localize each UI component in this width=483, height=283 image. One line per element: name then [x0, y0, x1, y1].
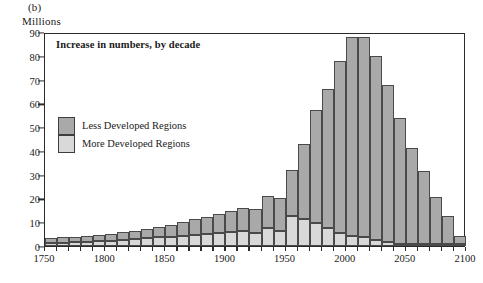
x-tick-mark [128, 247, 129, 251]
legend-label-more-developed: More Developed Regions [82, 138, 190, 149]
bar-segment-more-developed [286, 216, 298, 246]
x-tick-label: 1750 [34, 253, 55, 264]
x-tick-label: 2100 [455, 253, 476, 264]
bar-segment-less-developed [165, 225, 177, 237]
x-tick-mark [273, 247, 274, 251]
bar-segment-more-developed [129, 239, 141, 246]
y-tick-label: 60 [18, 99, 40, 110]
bar-segment-less-developed [454, 236, 466, 245]
bar-segment-less-developed [358, 37, 370, 238]
x-tick-mark [285, 247, 286, 251]
x-tick-label: 1800 [94, 253, 115, 264]
bar-segment-less-developed [310, 110, 322, 223]
y-tick-label: 0 [18, 242, 40, 253]
bar-segment-more-developed [117, 240, 129, 246]
bar-segment-less-developed [286, 170, 298, 216]
x-tick-mark [381, 247, 382, 251]
x-tick-mark [140, 247, 141, 251]
bar-segment-less-developed [117, 232, 129, 240]
x-tick-label: 1950 [274, 253, 295, 264]
bar-segment-less-developed [274, 198, 286, 232]
x-tick-mark [333, 247, 334, 251]
x-tick-mark [92, 247, 93, 251]
bar-segment-less-developed [45, 238, 57, 243]
bar-segment-more-developed [57, 243, 69, 246]
bar-segment-more-developed [201, 234, 213, 246]
x-tick-mark [176, 247, 177, 251]
bar-segment-less-developed [418, 171, 430, 244]
bar-segment-less-developed [406, 148, 418, 245]
bar-segment-more-developed [189, 235, 201, 246]
y-tick-label: 10 [18, 218, 40, 229]
x-tick-mark [44, 247, 45, 251]
bar-segment-more-developed [81, 242, 93, 246]
y-tick-label: 30 [18, 170, 40, 181]
x-tick-mark [80, 247, 81, 251]
bar-segment-more-developed [105, 241, 117, 246]
x-tick-mark [152, 247, 153, 251]
x-tick-mark [297, 247, 298, 251]
bar-segment-less-developed [153, 227, 165, 237]
x-tick-mark [212, 247, 213, 251]
y-tick-label: 20 [18, 194, 40, 205]
x-tick-label: 2050 [394, 253, 415, 264]
bar-segment-less-developed [237, 208, 249, 231]
x-tick-label: 2000 [334, 253, 355, 264]
bar-segment-more-developed [298, 219, 310, 246]
bar-segment-more-developed [213, 233, 225, 246]
y-axis: 0102030405060708090 [0, 0, 40, 283]
bar-segment-less-developed [141, 229, 153, 239]
y-tick-label: 50 [18, 123, 40, 134]
bar-segment-more-developed [237, 231, 249, 246]
bar-segment-less-developed [189, 219, 201, 234]
bar-segment-more-developed [225, 232, 237, 246]
bar-segment-more-developed [165, 237, 177, 247]
bar-segment-less-developed [262, 196, 274, 228]
x-tick-mark [68, 247, 69, 251]
bar-segment-less-developed [249, 209, 261, 233]
x-tick-mark [453, 247, 454, 251]
bar-segment-less-developed [213, 214, 225, 233]
bar-segment-more-developed [346, 236, 358, 246]
bar-segment-more-developed [370, 240, 382, 246]
bar-segment-less-developed [129, 231, 141, 240]
bar-segment-more-developed [322, 228, 334, 246]
bar-segment-less-developed [394, 118, 406, 244]
x-tick-mark [465, 247, 466, 251]
x-tick-mark [116, 247, 117, 251]
bar-segment-more-developed [69, 242, 81, 246]
bar-segment-less-developed [382, 85, 394, 242]
x-tick-mark [405, 247, 406, 251]
bar-segment-less-developed [430, 197, 442, 244]
bar-segment-more-developed [394, 244, 406, 246]
bar-segment-more-developed [177, 236, 189, 246]
x-tick-mark [164, 247, 165, 251]
y-tick-label: 90 [18, 28, 40, 39]
x-tick-mark [369, 247, 370, 251]
y-tick-label: 70 [18, 75, 40, 86]
bar-segment-less-developed [370, 56, 382, 240]
x-tick-mark [104, 247, 105, 251]
x-tick-mark [200, 247, 201, 251]
bar-segment-more-developed [310, 223, 322, 246]
x-tick-mark [309, 247, 310, 251]
bar-segment-less-developed [442, 216, 454, 244]
bar-segment-more-developed [358, 237, 370, 246]
y-tick-label: 80 [18, 51, 40, 62]
x-tick-mark [56, 247, 57, 251]
bar-segment-more-developed [274, 231, 286, 246]
x-tick-mark [417, 247, 418, 251]
x-tick-mark [357, 247, 358, 251]
legend-swatch-less-developed [58, 117, 75, 135]
chart-title: Increase in numbers, by decade [56, 39, 200, 50]
bar-segment-less-developed [93, 235, 105, 242]
y-tick-label: 40 [18, 146, 40, 157]
bar-segment-less-developed [81, 236, 93, 242]
x-tick-mark [393, 247, 394, 251]
bar-segment-less-developed [177, 222, 189, 235]
bar-segment-more-developed [249, 233, 261, 246]
figure-panel: (b) Millions 0102030405060708090 Increas… [0, 0, 483, 283]
x-tick-mark [224, 247, 225, 251]
x-tick-mark [188, 247, 189, 251]
bar-segment-less-developed [225, 211, 237, 232]
